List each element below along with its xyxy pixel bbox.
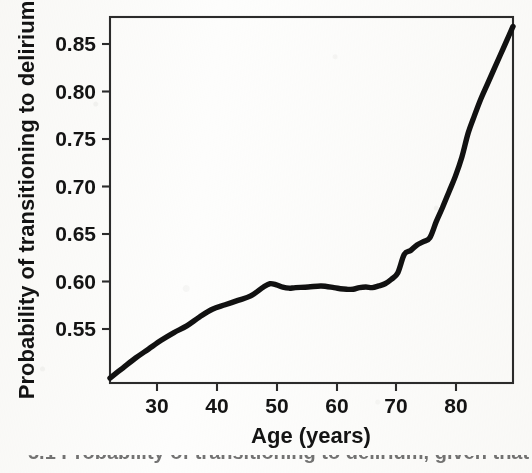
y-tick-label: 0.85	[55, 32, 96, 55]
y-tick-label: 0.55	[55, 317, 96, 340]
x-axis-tick-labels: 30 40 50 60 70 80	[145, 394, 467, 417]
x-tick-label: 60	[325, 394, 348, 417]
x-tick-label: 70	[384, 394, 407, 417]
plot-frame	[110, 17, 513, 383]
x-tick-label: 50	[265, 394, 288, 417]
y-tick-label: 0.75	[55, 127, 96, 150]
x-tick-label: 30	[145, 394, 168, 417]
figure-caption-cropped: 5.1 Probability of transitioning to deli…	[0, 455, 532, 473]
y-tick-label: 0.60	[55, 270, 96, 293]
y-axis-ticks	[102, 44, 110, 329]
x-tick-label: 40	[205, 394, 228, 417]
data-line-probability	[110, 26, 513, 378]
x-axis-ticks	[157, 383, 456, 391]
y-axis-tick-labels: 0.85 0.80 0.75 0.70 0.65 0.60 0.55	[55, 32, 96, 340]
caption-text: 5.1 Probability of transitioning to deli…	[28, 455, 529, 464]
x-tick-label: 80	[444, 394, 467, 417]
y-tick-label: 0.70	[55, 175, 96, 198]
y-axis-title: Probability of transitioning to delirium	[14, 1, 39, 399]
figure-panel: 0.85 0.80 0.75 0.70 0.65 0.60 0.55 30 40…	[0, 0, 532, 473]
y-tick-label: 0.80	[55, 80, 96, 103]
y-tick-label: 0.65	[55, 222, 96, 245]
chart-svg: 0.85 0.80 0.75 0.70 0.65 0.60 0.55 30 40…	[0, 0, 532, 473]
x-axis-title: Age (years)	[251, 423, 371, 448]
